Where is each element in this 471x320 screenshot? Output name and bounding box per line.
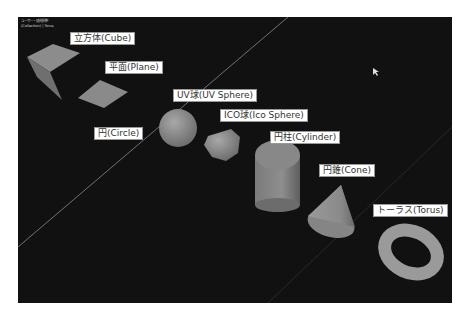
label-cone: 円錐(Cone) bbox=[319, 164, 375, 177]
cone-object bbox=[304, 185, 357, 243]
label-circle: 円(Circle) bbox=[94, 127, 143, 140]
label-uv-sphere: UV球(UV Sphere) bbox=[173, 89, 257, 102]
collection-text: (Collection) | Torus bbox=[21, 24, 54, 29]
label-torus: トーラス(Torus) bbox=[373, 204, 448, 217]
mouse-cursor-icon bbox=[373, 68, 379, 76]
scene-canvas bbox=[18, 17, 452, 303]
label-cylinder: 円柱(Cylinder) bbox=[270, 131, 340, 144]
plane-object bbox=[78, 80, 128, 108]
3d-viewport[interactable]: ユーザー・透視投影 (Collection) | Torus 立方体(Cube)… bbox=[18, 17, 452, 303]
torus-object bbox=[369, 213, 452, 291]
uv-sphere-object bbox=[159, 109, 197, 147]
label-cube: 立方体(Cube) bbox=[70, 32, 135, 45]
label-ico-sphere: ICO球(Ico Sphere) bbox=[220, 109, 308, 122]
ico-sphere-object bbox=[204, 129, 240, 161]
cylinder-object bbox=[255, 140, 300, 212]
cube-object bbox=[27, 44, 80, 100]
label-plane: 平面(Plane) bbox=[105, 61, 163, 74]
